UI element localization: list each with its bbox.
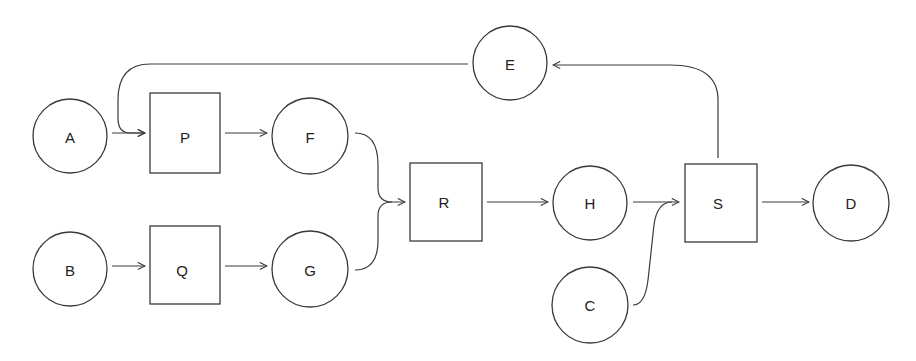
node-b: B: [33, 232, 107, 306]
node-h-label: H: [585, 195, 596, 212]
node-f: F: [272, 98, 348, 174]
node-e: E: [473, 26, 547, 100]
node-f-label: F: [305, 129, 314, 146]
node-d: D: [813, 165, 889, 241]
node-q: Q: [150, 226, 220, 304]
node-r-label: R: [439, 194, 450, 211]
node-d-label: D: [846, 195, 857, 212]
edge-g-to-r: [355, 202, 392, 270]
node-p-label: P: [180, 129, 190, 146]
node-c: C: [552, 267, 628, 343]
node-s: S: [685, 164, 757, 242]
node-g: G: [272, 231, 348, 307]
node-c-label: C: [585, 297, 596, 314]
node-e-label: E: [505, 56, 515, 73]
node-q-label: Q: [176, 262, 188, 279]
node-g-label: G: [304, 262, 316, 279]
node-b-label: B: [65, 262, 75, 279]
flow-diagram: A P F E B Q G R H S D C: [0, 0, 916, 361]
edge-f-to-r: [355, 133, 405, 202]
node-p: P: [150, 93, 220, 173]
node-r: R: [410, 163, 482, 241]
node-a: A: [33, 99, 107, 173]
node-h: H: [553, 166, 627, 240]
node-a-label: A: [65, 129, 75, 146]
node-s-label: S: [713, 195, 723, 212]
edge-c-to-s: [633, 202, 672, 305]
edge-s-to-e: [553, 65, 718, 158]
